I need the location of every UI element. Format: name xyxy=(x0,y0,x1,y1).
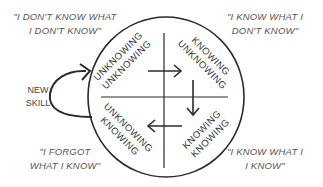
competence-cycle-diagram: UNKNOWING UNKNOWING KNOWING UNKNOWING KN… xyxy=(0,0,323,187)
new-skill-loop-arrow xyxy=(50,71,92,117)
quadrant-top-right: KNOWING UNKNOWING xyxy=(176,29,238,91)
quadrant-top-left: UNKNOWING UNKNOWING xyxy=(91,29,153,91)
arrowhead-icon xyxy=(80,64,90,80)
quadrant-bottom-left: UNKNOWING KNOWING xyxy=(93,101,155,163)
